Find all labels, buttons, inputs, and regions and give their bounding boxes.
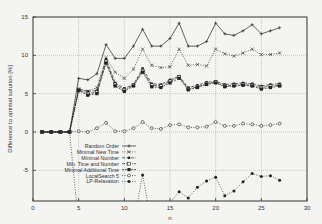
line-chart: 051015202530 -5051015 n Difference to op… — [0, 0, 322, 224]
y-tick-label: 10 — [21, 52, 28, 58]
y-tick-label: -5 — [23, 167, 29, 173]
y-tick-label: 5 — [25, 91, 29, 97]
legend-label: LP-Relaxation — [86, 178, 119, 184]
legend: Random OrderMinimal New TimeMinimal Numb… — [65, 143, 137, 184]
y-tick-label: 0 — [25, 129, 29, 135]
series-localsearch-5 — [41, 121, 281, 134]
y-axis-ticks: -5051015 — [21, 14, 36, 173]
y-axis-label: Difference to optimal solution [%] — [7, 65, 13, 153]
series-random-order — [41, 22, 282, 134]
x-tick-label: 10 — [121, 205, 128, 211]
x-tick-label: 20 — [212, 205, 219, 211]
x-axis-label: n — [168, 215, 171, 221]
data-series — [41, 22, 282, 224]
x-tick-label: 25 — [258, 205, 265, 211]
x-tick-label: 0 — [31, 205, 35, 211]
legend-item: LP-Relaxation — [86, 178, 136, 184]
y-tick-label: 15 — [21, 14, 28, 20]
x-tick-label: 30 — [304, 205, 311, 211]
x-tick-label: 5 — [77, 205, 81, 211]
series-minimal-number — [41, 58, 281, 133]
x-axis-ticks: 051015202530 — [31, 198, 311, 211]
x-tick-label: 15 — [167, 205, 174, 211]
